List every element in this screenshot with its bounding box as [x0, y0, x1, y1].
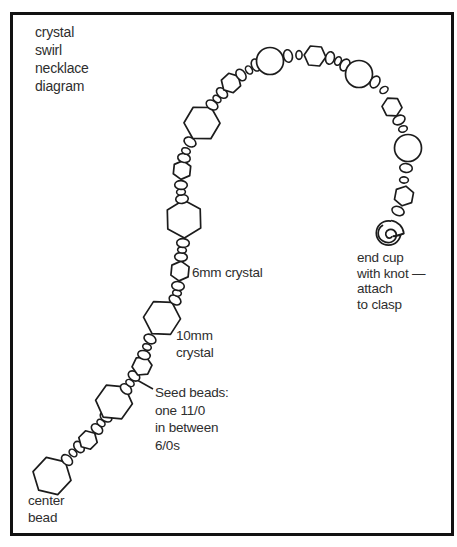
title-line: crystal: [35, 23, 89, 41]
end-cup-line: attach: [357, 281, 425, 297]
crystal-hex-bead: [173, 161, 190, 180]
title-label: crystal swirl necklace diagram: [35, 23, 89, 95]
seed-bead-11-0: [379, 85, 390, 95]
label-center-bead: center bead: [28, 492, 64, 526]
center-bead-line: center: [28, 492, 64, 509]
end-cup-line: with knot —: [357, 266, 425, 282]
crystal-hex-bead: [184, 107, 220, 138]
crystal-round-bead: [395, 135, 422, 162]
diagram-page: crystal swirl necklace diagram 6mm cryst…: [0, 0, 457, 547]
crystal-round-bead: [346, 61, 373, 88]
seed-note-line: one 11/0: [155, 402, 229, 420]
seed-bead-6-0: [176, 238, 189, 248]
label-6mm-crystal: 6mm crystal: [192, 264, 263, 282]
seed-bead-6-0: [390, 205, 405, 218]
end-cup-line: end cup: [357, 250, 425, 266]
seed-note-line: in between: [155, 419, 229, 437]
crystal-hex-bead: [304, 46, 326, 66]
seed-note-line: 6/0s: [155, 437, 229, 455]
crystal-hex-bead: [382, 98, 402, 116]
end-cup-with-knot: [376, 221, 404, 246]
seed-bead-11-0: [399, 177, 408, 184]
label-10mm-line: 10mm: [176, 327, 214, 344]
seed-note-pointer-line: [137, 380, 153, 389]
crystal-hex-bead: [79, 431, 97, 449]
end-cup-line: to clasp: [357, 297, 425, 313]
seed-bead-11-0: [296, 51, 302, 60]
label-10mm-line: crystal: [176, 344, 214, 361]
title-line: diagram: [35, 77, 89, 95]
crystal-hex-bead: [167, 200, 200, 238]
title-line: swirl: [35, 41, 89, 59]
seed-note-line: Seed beads:: [155, 384, 229, 402]
label-10mm-crystal: 10mm crystal: [176, 327, 214, 361]
seed-bead-6-0: [175, 180, 188, 189]
title-line: necklace: [35, 59, 89, 77]
crystal-hex-bead: [171, 261, 189, 281]
crystal-round-bead: [257, 48, 284, 75]
label-seed-beads-note: Seed beads: one 11/0 in between 6/0s: [155, 384, 229, 454]
seed-bead-6-0: [171, 281, 185, 291]
crystal-hex-bead: [395, 186, 414, 206]
seed-bead-6-0: [399, 163, 413, 173]
center-bead-line: bead: [28, 509, 64, 526]
label-end-cup: end cup with knot — attach to clasp: [357, 250, 425, 312]
seed-bead-11-0: [398, 125, 408, 134]
crystal-hex-bead: [144, 302, 181, 335]
